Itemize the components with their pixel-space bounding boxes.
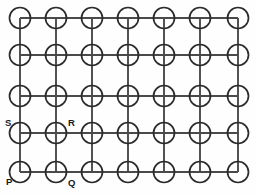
node-label-r: R xyxy=(68,117,75,128)
node-label-s: S xyxy=(5,117,11,128)
lattice-nodes xyxy=(10,8,249,183)
vertical-grid-lines xyxy=(20,18,238,172)
node-label-p: P xyxy=(6,176,13,187)
lattice-diagram: PQRS xyxy=(0,0,257,195)
node-label-q: Q xyxy=(68,177,75,188)
horizontal-grid-lines xyxy=(20,18,238,172)
lattice-figure: PQRS xyxy=(0,0,257,195)
